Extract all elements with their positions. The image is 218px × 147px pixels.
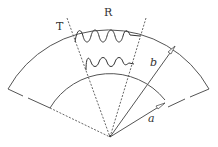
radius-arrow-b (110, 46, 175, 137)
arrowhead-a (156, 103, 165, 109)
center-point (109, 135, 111, 137)
right-edge (168, 89, 209, 107)
label-R: R (104, 6, 113, 19)
label-T: T (56, 20, 64, 33)
label-b: b (150, 56, 157, 69)
wavy-line-lower (86, 58, 134, 71)
left-edge (8, 89, 50, 108)
label-a: a (148, 112, 155, 125)
inner-arc (50, 74, 165, 108)
sector-diagram: T R b a (0, 0, 218, 147)
outer-arc (8, 30, 209, 89)
radius-arrow-a (110, 103, 165, 137)
dashed-line-left (50, 108, 110, 137)
